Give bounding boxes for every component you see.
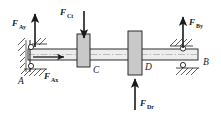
label-point-b: B <box>203 57 209 67</box>
label-f-ax-base: F <box>43 71 50 81</box>
free-body-diagram: F Ay F Ax F Ct F Dr F By A B C D <box>0 0 221 116</box>
gear-c <box>77 34 90 67</box>
label-f-ay-base: F <box>11 18 18 28</box>
label-f-by: F By <box>188 17 203 29</box>
bearing-roller-b-lower <box>180 62 185 67</box>
label-f-by-sub: By <box>196 23 203 29</box>
bearing-roller-a-lower <box>28 63 33 68</box>
label-f-by-base: F <box>188 17 195 27</box>
label-f-ct-sub: Ct <box>67 13 73 19</box>
label-point-a: A <box>17 76 24 86</box>
label-f-dr-base: F <box>139 98 146 108</box>
label-f-ct: F Ct <box>59 7 73 19</box>
label-f-dr: F Dr <box>139 98 154 110</box>
label-point-d: D <box>144 62 152 72</box>
label-f-ay-sub: Ay <box>19 24 26 30</box>
label-f-ax: F Ax <box>43 71 58 83</box>
gear-d <box>128 31 142 75</box>
diagram-canvas: F Ay F Ax F Ct F Dr F By A B C D <box>0 0 221 116</box>
bearing-roller-a-upper <box>28 44 33 49</box>
label-f-ax-sub: Ax <box>51 77 58 83</box>
label-point-c: C <box>93 65 100 75</box>
label-f-ct-base: F <box>59 7 66 17</box>
shaft <box>28 49 198 60</box>
label-f-ay: F Ay <box>11 18 26 30</box>
label-f-dr-sub: Dr <box>147 104 154 110</box>
